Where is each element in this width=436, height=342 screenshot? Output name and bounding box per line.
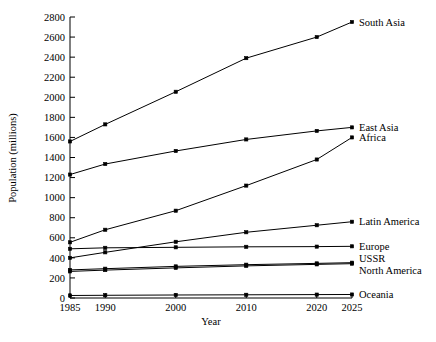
population-line-chart: 0200400600800100012001400160018002000220…	[0, 0, 436, 342]
series-line-north-america	[70, 264, 352, 272]
x-tick-label: 2010	[236, 302, 257, 313]
data-point-marker	[104, 162, 107, 165]
data-point-marker	[174, 246, 177, 249]
x-tick-label: 1985	[60, 302, 81, 313]
data-point-marker	[245, 138, 248, 141]
data-point-marker	[174, 293, 177, 296]
y-tick-label: 1800	[44, 112, 65, 123]
data-point-marker	[315, 245, 318, 248]
y-tick-label: 200	[49, 273, 65, 284]
series-label-group: South AsiaEast AsiaAfricaLatin AmericaEu…	[359, 17, 422, 300]
data-point-marker	[174, 240, 177, 243]
data-point-marker	[68, 256, 71, 259]
data-point-marker	[174, 149, 177, 152]
data-point-marker	[245, 231, 248, 234]
data-point-marker	[315, 293, 318, 296]
series-label-africa: Africa	[359, 132, 386, 143]
series-group	[68, 20, 353, 297]
data-point-marker	[68, 173, 71, 176]
data-point-marker	[104, 251, 107, 254]
series-line-east-asia	[70, 127, 352, 174]
series-line-latin-america	[70, 222, 352, 258]
data-point-marker	[174, 266, 177, 269]
series-line-africa	[70, 137, 352, 242]
data-point-marker	[68, 247, 71, 250]
data-point-marker	[68, 140, 71, 143]
data-point-marker	[68, 294, 71, 297]
data-point-marker	[245, 264, 248, 267]
data-point-marker	[315, 35, 318, 38]
data-point-marker	[245, 57, 248, 60]
data-point-marker	[315, 224, 318, 227]
data-point-marker	[104, 123, 107, 126]
data-point-marker	[350, 220, 353, 223]
chart-canvas: 0200400600800100012001400160018002000220…	[0, 0, 436, 342]
series-line-ussr	[70, 263, 352, 270]
data-point-marker	[174, 209, 177, 212]
data-point-marker	[245, 245, 248, 248]
y-tick-label: 800	[49, 212, 65, 223]
x-axis-title: Year	[201, 316, 221, 327]
y-tick-label: 1000	[44, 192, 65, 203]
data-point-marker	[350, 293, 353, 296]
y-tick-label: 1600	[44, 132, 65, 143]
y-tick-label: 2200	[44, 72, 65, 83]
data-point-marker	[104, 246, 107, 249]
series-label-oceania: Oceania	[359, 289, 394, 300]
y-axis: 0200400600800100012001400160018002000220…	[44, 12, 75, 304]
y-tick-label: 600	[49, 232, 65, 243]
data-point-marker	[104, 269, 107, 272]
series-label-ussr: USSR	[359, 253, 385, 264]
y-axis-title: Population (millions)	[7, 113, 19, 203]
data-point-marker	[315, 263, 318, 266]
data-point-marker	[350, 126, 353, 129]
x-tick-label: 2025	[342, 302, 363, 313]
data-point-marker	[350, 245, 353, 248]
data-point-marker	[104, 228, 107, 231]
series-line-oceania	[70, 294, 352, 295]
y-tick-label: 1400	[44, 152, 65, 163]
y-tick-label: 2800	[44, 12, 65, 23]
data-point-marker	[315, 129, 318, 132]
data-point-marker	[245, 293, 248, 296]
x-tick-label: 2000	[165, 302, 186, 313]
y-tick-label: 400	[49, 253, 65, 264]
y-tick-label: 2000	[44, 92, 65, 103]
data-point-marker	[350, 20, 353, 23]
series-label-south-asia: South Asia	[359, 17, 405, 28]
series-line-europe	[70, 246, 352, 249]
data-point-marker	[245, 184, 248, 187]
data-point-marker	[68, 270, 71, 273]
data-point-marker	[104, 294, 107, 297]
x-tick-label: 2020	[306, 302, 327, 313]
data-point-marker	[350, 136, 353, 139]
y-tick-label: 1200	[44, 172, 65, 183]
y-tick-label: 2600	[44, 32, 65, 43]
series-label-north-america: North America	[359, 265, 422, 276]
x-tick-label: 1990	[95, 302, 116, 313]
series-label-latin-america: Latin America	[359, 216, 420, 227]
y-tick-label: 2400	[44, 52, 65, 63]
data-point-marker	[68, 241, 71, 244]
data-point-marker	[315, 158, 318, 161]
data-point-marker	[350, 262, 353, 265]
series-line-south-asia	[70, 22, 352, 141]
data-point-marker	[174, 90, 177, 93]
series-label-europe: Europe	[359, 241, 390, 252]
